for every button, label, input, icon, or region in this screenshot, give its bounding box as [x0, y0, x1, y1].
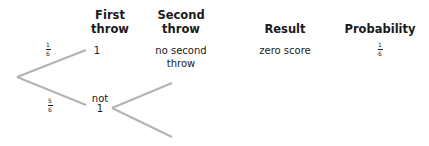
header-first-throw: First throw: [80, 8, 140, 36]
row1-result: zero score: [250, 44, 320, 57]
outcome-one: 1: [92, 44, 102, 57]
row1-probability: 1 6: [375, 42, 385, 57]
outcome-not-one-value: 1: [95, 102, 105, 115]
row1-second-throw: no second throw: [145, 44, 217, 70]
header-result: Result: [255, 22, 315, 36]
branch-probability-lower: 5 6: [45, 98, 55, 113]
header-probability: Probability: [340, 22, 420, 36]
branch-probability-upper: 1 6: [43, 42, 53, 57]
header-second-throw: Second throw: [145, 8, 217, 36]
